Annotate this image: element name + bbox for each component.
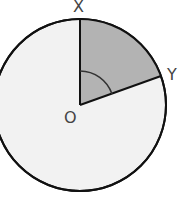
label-o: O [64, 108, 77, 127]
label-x: X [73, 0, 84, 16]
circle-diagram: X Y O [0, 0, 184, 221]
label-y: Y [166, 65, 177, 84]
